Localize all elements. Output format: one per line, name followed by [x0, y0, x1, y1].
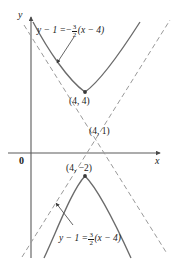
lower-vertex-label: (4, −2) — [66, 163, 92, 173]
upper-equation-rhs: (x − 4) — [78, 25, 104, 35]
hyperbola-figure: y x 0 y − 1 =−32(x − 4) y − 1 =32(x − 4)… — [0, 0, 172, 263]
lower-equation-rhs: (x − 4) — [94, 233, 120, 243]
upper-equation: y − 1 =−32(x − 4) — [37, 24, 104, 39]
lower-equation: y − 1 =32(x − 4) — [59, 232, 121, 247]
upper-vertex-dot — [83, 90, 87, 94]
asymptote-negative — [24, 25, 166, 252]
upper-equation-numerator: 3 — [72, 24, 78, 31]
upper-equation-denominator: 2 — [72, 31, 78, 39]
asymptote-positive — [22, 20, 170, 257]
upper-equation-lhs: y − 1 = — [37, 25, 66, 35]
upper-equation-leader — [57, 37, 74, 63]
upper-equation-fraction: 32 — [72, 24, 78, 39]
lower-vertex-dot — [83, 174, 87, 178]
x-axis-label: x — [155, 155, 159, 166]
y-axis-label: y — [18, 9, 22, 20]
upper-vertex-label: (4, 4) — [69, 96, 90, 106]
lower-equation-leader — [56, 203, 73, 225]
origin-label: 0 — [19, 155, 24, 166]
lower-equation-lhs: y − 1 = — [59, 233, 88, 243]
upper-equation-sign: − — [66, 25, 71, 35]
center-label: (4, 1) — [89, 126, 110, 136]
graph-canvas — [0, 0, 172, 263]
